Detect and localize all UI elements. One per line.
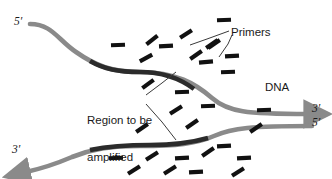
pcr-primers-diagram: Primers DNA Region to be amplified 5′ 3′… xyxy=(0,0,332,179)
primer-dash xyxy=(179,28,193,39)
region-label-line2: amplified xyxy=(87,151,152,163)
lower-strand-grey xyxy=(26,126,312,172)
primer-dash xyxy=(217,18,231,23)
region-to-be-amplified-label: Region to be amplified xyxy=(87,89,152,179)
end-marker-lower-right-5prime: 5′ xyxy=(312,116,320,128)
lower-strand-group xyxy=(26,126,312,172)
primer-dash xyxy=(163,165,177,176)
end-marker-lower-left-3prime: 3′ xyxy=(12,143,20,155)
primers-label: Primers xyxy=(231,26,271,38)
leader-line xyxy=(190,31,229,45)
dna-label: DNA xyxy=(265,81,289,93)
primer-dash xyxy=(175,156,189,161)
primer-dash xyxy=(199,59,213,64)
primer-dash xyxy=(237,156,251,161)
primer-dash xyxy=(225,54,239,59)
primer-dash xyxy=(231,167,245,178)
primer-dash xyxy=(189,170,203,175)
end-marker-upper-right-3prime: 3′ xyxy=(312,102,320,114)
primer-dash xyxy=(159,44,173,49)
primer-dash xyxy=(169,105,183,116)
primer-dash xyxy=(201,146,215,157)
primer-dash xyxy=(185,118,199,129)
primer-dash xyxy=(145,34,159,46)
primer-dash xyxy=(221,70,235,75)
primer-dash xyxy=(257,108,271,113)
region-label-line1: Region to be xyxy=(87,114,152,126)
primer-dash xyxy=(217,144,231,149)
end-marker-upper-left-5prime: 5′ xyxy=(14,15,22,27)
primer-dash xyxy=(189,49,203,60)
primer-dash xyxy=(175,90,189,95)
primer-dash xyxy=(201,104,215,109)
primer-dash xyxy=(111,43,125,48)
primer-dash xyxy=(139,53,153,63)
